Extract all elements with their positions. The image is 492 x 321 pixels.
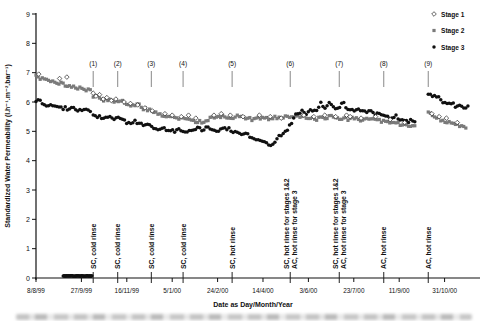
y-axis-ticks: 0123456789 <box>26 11 36 282</box>
stage3-point <box>466 104 470 108</box>
x-tick-label: 31/10/00 <box>432 287 457 294</box>
x-tick-label: 24/2/00 <box>207 287 229 294</box>
stage3-point <box>325 104 329 108</box>
cropped-caption-text <box>16 314 472 320</box>
stage3-point <box>202 128 206 132</box>
x-tick-label: 3/6/00 <box>300 287 318 294</box>
event-label: SC, cold rinse <box>114 223 122 269</box>
event-label: SC, cold rinse <box>180 223 188 269</box>
event-number: (1) <box>89 60 97 68</box>
event-number: (8) <box>380 60 388 68</box>
event-number: (5) <box>228 60 236 68</box>
stage3-point <box>273 141 277 145</box>
stage3-point <box>413 120 417 124</box>
stage3-point <box>286 128 290 132</box>
event-label: SC, hot rinse for stages 1&2 <box>332 178 340 269</box>
permeability-chart: 01234567898/8/9927/9/9916/11/995/1/0024/… <box>0 0 492 321</box>
stage3-point <box>394 113 398 117</box>
stage2-point <box>89 88 92 91</box>
legend: Stage 1Stage 2Stage 3 <box>432 11 465 52</box>
cleaning-events: (1)SC, cold rinse(2)SC, cold rinse(3)SC,… <box>89 60 433 283</box>
stage3-point <box>319 100 323 104</box>
legend-label: Stage 3 <box>441 44 465 52</box>
stage3-point <box>292 116 296 120</box>
x-tick-label: 16/11/99 <box>115 287 140 294</box>
x-tick-label: 8/8/99 <box>27 287 45 294</box>
x-tick-label: 27/9/99 <box>71 287 93 294</box>
y-tick-label: 3 <box>26 187 30 194</box>
y-tick-label: 1 <box>26 245 30 252</box>
stage1-point <box>65 75 70 80</box>
stage2-point <box>432 29 435 32</box>
stage1-point <box>186 113 191 118</box>
y-tick-label: 6 <box>26 99 30 106</box>
y-tick-label: 0 <box>26 275 30 282</box>
y-tick-label: 5 <box>26 128 30 135</box>
stage3-point <box>90 274 94 278</box>
y-axis-title: Standardized Water Permeability (l.h⁻¹.m… <box>4 64 12 227</box>
stage3-point <box>298 111 302 115</box>
event-number: (9) <box>424 60 432 68</box>
x-axis-title: Date as Day/Month/Year <box>213 301 293 309</box>
event-number: (4) <box>179 60 187 68</box>
stage3-point <box>38 98 42 102</box>
stage3-point <box>437 95 441 99</box>
stage3-point <box>275 137 279 141</box>
stage3-point <box>432 45 436 49</box>
event-label: AC, hot rinse for stage 3 <box>340 190 348 269</box>
event-label: AC, hot rinse <box>380 226 388 269</box>
stage1-point <box>444 116 449 121</box>
stage2-point <box>315 119 318 122</box>
event-label: SC, cold rinse <box>90 223 98 269</box>
y-tick-label: 4 <box>26 157 30 164</box>
y-tick-label: 7 <box>26 69 30 76</box>
stage3-point <box>290 122 294 126</box>
event-label: SC, hot rinse <box>229 227 237 269</box>
stage1-point <box>57 76 62 81</box>
x-tick-label: 11/9/00 <box>389 287 410 294</box>
y-tick-label: 2 <box>26 216 30 223</box>
stage2-point <box>378 118 381 121</box>
stage2-point <box>206 119 209 122</box>
y-tick-label: 9 <box>26 11 30 18</box>
stage3-point <box>439 98 443 102</box>
stage3-point <box>63 105 67 109</box>
event-number: (7) <box>335 60 343 68</box>
event-label: SC, hot rinse for stages 1&2 <box>283 178 291 269</box>
stage1-point <box>432 12 437 17</box>
event-label: SC, cold rinse <box>148 223 156 269</box>
x-tick-label: 5/1/00 <box>163 287 181 294</box>
stage2-point <box>413 124 416 127</box>
legend-label: Stage 1 <box>441 11 465 19</box>
x-axis-ticks: 8/8/9927/9/9916/11/995/1/0024/2/0014/4/0… <box>27 278 457 294</box>
stage3-point <box>246 132 250 136</box>
stage3-point <box>198 126 202 130</box>
stage3-point <box>89 110 93 114</box>
event-label: AC, hot rinse for stage 3 <box>291 190 299 269</box>
stage2-point <box>248 116 251 119</box>
event-number: (3) <box>147 60 155 68</box>
stage2-point <box>62 82 65 85</box>
event-number: (6) <box>286 60 294 68</box>
stage3-point <box>133 119 137 123</box>
figure: 01234567898/8/9927/9/9916/11/995/1/0024/… <box>0 0 492 321</box>
stage3-point <box>317 105 321 109</box>
stage3-point <box>315 109 319 113</box>
stage2-point <box>325 117 328 120</box>
stage3-point <box>452 101 456 105</box>
event-label: AC, hot rinse <box>425 226 433 269</box>
y-tick-label: 8 <box>26 40 30 47</box>
stage3-point <box>342 101 346 105</box>
stage2-point <box>464 126 467 129</box>
x-tick-label: 23/7/00 <box>343 287 365 294</box>
stage3-point <box>123 118 127 122</box>
legend-label: Stage 2 <box>441 27 465 35</box>
event-number: (2) <box>114 60 122 68</box>
stage3-point <box>338 106 342 110</box>
stage3-point <box>227 126 231 130</box>
x-tick-label: 14/4/00 <box>252 287 274 294</box>
